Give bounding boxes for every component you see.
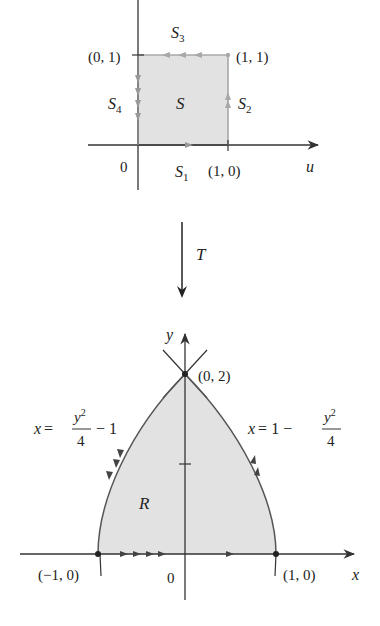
uv-plane: (0, 1) (1, 1) (1, 0) 0 u S S1 S2 S3 S4	[88, 0, 318, 190]
label-corner-01: (0, 1)	[88, 49, 121, 66]
label-corner-10: (1, 0)	[208, 163, 241, 180]
label-transform: T	[196, 245, 207, 264]
label-point-right: (1, 0)	[283, 567, 316, 584]
arrow-icon	[117, 449, 124, 458]
label-s1: S1	[175, 163, 189, 183]
tick-x1	[275, 554, 276, 576]
label-s2: S2	[238, 95, 252, 115]
label-s4: S4	[108, 95, 122, 115]
label-point-top: (0, 2)	[198, 368, 231, 385]
label-u-axis: u	[306, 158, 314, 175]
label-y-axis: y	[164, 326, 174, 344]
svg-text:y2: y2	[72, 407, 86, 425]
svg-text:4: 4	[77, 433, 85, 449]
equation-left-curve: x= y2 4 − 1	[33, 407, 117, 449]
label-corner-11: (1, 1)	[236, 49, 269, 66]
point-m1-0	[95, 551, 101, 557]
transformation-diagram: (0, 1) (1, 1) (1, 0) 0 u S S1 S2 S3 S4 T	[0, 0, 380, 626]
label-origin: 0	[167, 570, 175, 586]
svg-text:x=1−: x=1−	[247, 420, 292, 437]
svg-text:x=: x=	[33, 420, 53, 437]
label-origin: 0	[120, 159, 128, 175]
point-0-2	[182, 371, 188, 377]
arrow-icon	[113, 459, 120, 468]
label-x-axis: x	[351, 566, 359, 583]
corner-dot	[226, 53, 230, 57]
label-region-s: S	[176, 94, 185, 113]
point-1-0	[273, 551, 279, 557]
arrow-icon	[106, 471, 113, 480]
svg-text:4: 4	[327, 433, 335, 449]
transformation-arrow: T	[177, 222, 207, 298]
label-region-r: R	[138, 494, 150, 513]
arrow-icon	[250, 455, 256, 464]
label-s3: S3	[171, 24, 185, 44]
svg-text:− 1: − 1	[96, 420, 117, 437]
tick-xm1	[100, 554, 101, 576]
label-point-left: (−1, 0)	[38, 567, 79, 584]
xy-plane: y x (0, 2) (−1, 0) (1, 0) 0 R x= y2 4 − …	[20, 326, 359, 600]
svg-text:y2: y2	[322, 407, 336, 425]
equation-right-curve: x=1− y2 4	[247, 407, 341, 449]
